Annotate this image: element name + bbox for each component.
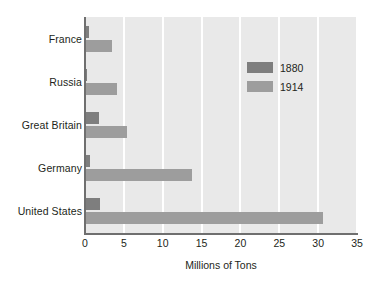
bar-france-1914 <box>85 40 112 52</box>
legend-swatch-1880 <box>247 62 273 73</box>
x-tick-0: 0 <box>82 237 88 249</box>
x-tick-10: 10 <box>157 237 169 249</box>
bar-france-1880 <box>85 26 89 38</box>
legend-item[interactable]: 1880 <box>247 58 303 77</box>
category-label-great-britain: Great Britain <box>0 119 82 131</box>
bar-great-britain-1880 <box>85 112 99 124</box>
y-axis-line <box>84 17 86 234</box>
legend-swatch-1914 <box>247 81 273 92</box>
x-tick-30: 30 <box>312 237 324 249</box>
legend: 1880 1914 <box>247 58 303 96</box>
bar-russia-1914 <box>85 83 117 95</box>
x-tick-20: 20 <box>235 237 247 249</box>
category-label-germany: Germany <box>0 162 82 174</box>
plot-area <box>85 17 357 233</box>
legend-label-1880: 1880 <box>280 62 303 74</box>
bar-germany-1914 <box>85 169 192 181</box>
legend-item[interactable]: 1914 <box>247 77 303 96</box>
x-tick-25: 25 <box>273 237 285 249</box>
bar-united-states-1880 <box>85 198 100 210</box>
x-axis-title: Millions of Tons <box>85 259 357 271</box>
x-tick-15: 15 <box>196 237 208 249</box>
bars-layer <box>85 17 357 233</box>
category-label-russia: Russia <box>0 76 82 88</box>
category-label-france: France <box>0 33 82 45</box>
x-tick-5: 5 <box>121 237 127 249</box>
legend-label-1914: 1914 <box>280 81 303 93</box>
bar-great-britain-1914 <box>85 126 127 138</box>
category-label-united-states: United States <box>0 205 82 217</box>
bar-germany-1880 <box>85 155 90 167</box>
x-tick-35: 35 <box>351 237 363 249</box>
bar-united-states-1914 <box>85 212 323 224</box>
x-axis-tick-labels: 05101520253035 <box>0 237 381 253</box>
bar-chart: FranceRussiaGreat BritainGermanyUnited S… <box>0 0 381 283</box>
x-axis-line <box>84 233 358 235</box>
